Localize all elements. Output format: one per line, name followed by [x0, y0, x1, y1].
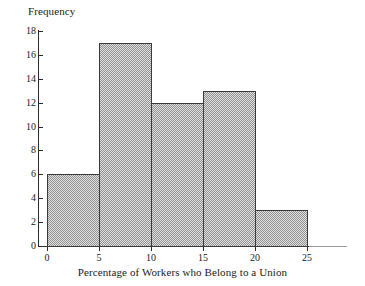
x-tick-mark: [99, 247, 100, 251]
x-tick-mark: [255, 247, 256, 251]
x-tick-mark: [203, 247, 204, 251]
y-tick-mark: [39, 174, 43, 175]
histogram-bar: [151, 103, 204, 247]
y-tick-mark: [39, 55, 43, 56]
y-tick-mark: [39, 127, 43, 128]
y-tick-mark: [39, 222, 43, 223]
y-axis-line: [38, 30, 39, 247]
histogram-bar: [203, 91, 256, 247]
y-tick-mark: [39, 198, 43, 199]
y-tick-label: 10: [2, 122, 36, 132]
histogram-bar: [255, 210, 308, 247]
x-tick-label: 20: [240, 252, 270, 264]
y-tick-mark: [39, 31, 43, 32]
x-tick-label: 0: [32, 252, 62, 264]
y-tick-label: 2: [2, 217, 36, 227]
y-tick-label: 8: [2, 145, 36, 155]
y-tick-mark: [39, 103, 43, 104]
x-axis-title: Percentage of Workers who Belong to a Un…: [0, 266, 365, 279]
x-tick-mark: [307, 247, 308, 251]
y-tick-label: 12: [2, 98, 36, 108]
y-tick-label: 6: [2, 169, 36, 179]
x-tick-mark: [151, 247, 152, 251]
y-tick-mark: [39, 150, 43, 151]
histogram-bar: [99, 43, 152, 247]
y-tick-label: 4: [2, 193, 36, 203]
x-tick-label: 10: [136, 252, 166, 264]
x-tick-mark: [47, 247, 48, 251]
y-tick-label: 0: [2, 241, 36, 251]
histogram-chart: Frequency 024681012141618 0510152025 Per…: [0, 0, 365, 286]
y-axis-title: Frequency: [28, 5, 75, 18]
y-tick-mark: [39, 246, 43, 247]
x-axis-line-extension: [309, 246, 347, 247]
x-tick-label: 25: [292, 252, 322, 264]
y-tick-label: 14: [2, 74, 36, 84]
histogram-bar: [47, 174, 100, 247]
y-tick-label: 16: [2, 50, 36, 60]
x-tick-label: 5: [84, 252, 114, 264]
y-tick-mark: [39, 79, 43, 80]
y-tick-label: 18: [2, 26, 36, 36]
x-tick-label: 15: [188, 252, 218, 264]
